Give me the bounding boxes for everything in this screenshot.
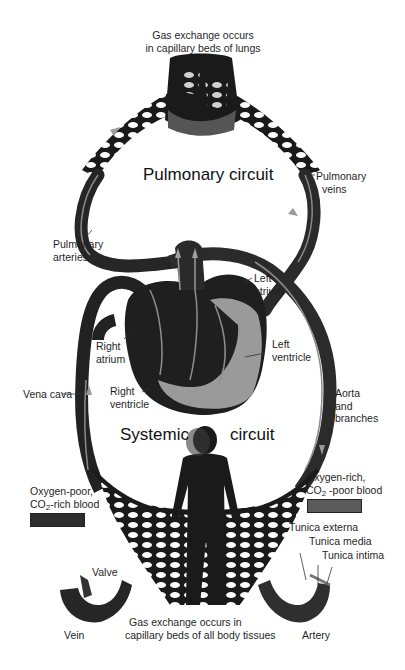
left-ventricle-label: Left ventricle (272, 338, 311, 363)
left-ventricle-line2: ventricle (272, 351, 311, 364)
left-atrium-label: Left atrium (254, 272, 283, 297)
right-ventricle-line2: ventricle (110, 398, 149, 411)
pulmonary-veins-label: Pulmonary veins (316, 170, 366, 195)
co-text: CO (306, 484, 322, 496)
pulmonary-arteries-line1: Pulmonary (53, 238, 103, 251)
artery-label: Artery (302, 629, 330, 642)
tissues-exchange-line2: capillary beds of all body tissues (125, 629, 276, 642)
left-atrium-line1: Left (254, 272, 283, 285)
right-atrium-line1: Right (96, 340, 125, 353)
pulmonary-circuit-title: Pulmonary circuit (143, 165, 273, 185)
poor-blood-text: -poor blood (326, 484, 382, 496)
pulmonary-veins-line1: Pulmonary (316, 170, 366, 183)
aorta-line2: and (335, 400, 378, 413)
tissues-exchange-label: Gas exchange occurs in capillary beds of… (125, 616, 276, 641)
right-atrium-line2: atrium (96, 353, 125, 366)
right-ventricle-line1: Right (110, 385, 149, 398)
circulation-diagram (0, 0, 405, 670)
right-atrium-label: Right atrium (96, 340, 125, 365)
oxygen-poor-legend-label: Oxygen-poor, CO2-rich blood (30, 485, 99, 514)
left-atrium-line2: atrium (254, 285, 283, 298)
oxygen-poor-swatch (30, 513, 85, 527)
oxygen-poor-line2: CO2-rich blood (30, 498, 99, 515)
tunica-media-label: Tunica media (309, 535, 372, 548)
artery-cross-section (258, 553, 332, 622)
oxygen-rich-legend-label: Oxygen-rich, CO2 -poor blood (306, 471, 382, 500)
tunica-externa-label: Tunica externa (289, 521, 358, 534)
aorta-line1: Aorta (335, 387, 378, 400)
co-text: CO (30, 498, 46, 510)
lungs-capillary-bed (82, 54, 320, 179)
circuit-label: circuit (230, 425, 274, 445)
lungs-exchange-line2: in capillary beds of lungs (128, 42, 278, 55)
valve-label: Valve (92, 566, 118, 579)
lungs-exchange-label: Gas exchange occurs in capillary beds of… (128, 29, 278, 54)
aorta-label: Aorta and branches (335, 387, 378, 425)
oxygen-poor-line1: Oxygen-poor, (30, 485, 99, 498)
vena-cava-label: Vena cava (23, 388, 72, 401)
left-ventricle-line1: Left (272, 338, 311, 351)
oxygen-rich-line2: CO2 -poor blood (306, 484, 382, 501)
vein-label: Vein (64, 629, 84, 642)
tunica-intima-label: Tunica intima (322, 549, 384, 562)
tissues-exchange-line1: Gas exchange occurs in (125, 616, 276, 629)
oxygen-rich-line1: Oxygen-rich, (306, 471, 382, 484)
vein-cross-section (60, 575, 132, 622)
pulmonary-arteries-label: Pulmonary arteries (53, 238, 103, 263)
oxygen-rich-swatch (307, 499, 362, 513)
pulmonary-arteries-line2: arteries (53, 251, 103, 264)
pulmonary-veins-line2: veins (316, 183, 366, 196)
rich-blood-text: -rich blood (50, 498, 99, 510)
aorta-line3: branches (335, 412, 378, 425)
systemic-label: Systemic (120, 425, 189, 445)
lungs-exchange-line1: Gas exchange occurs (128, 29, 278, 42)
right-ventricle-label: Right ventricle (110, 385, 149, 410)
